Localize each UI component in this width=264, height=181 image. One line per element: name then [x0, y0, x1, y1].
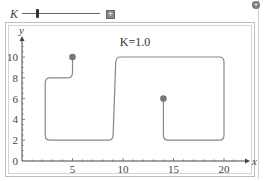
chart: xy51015200246810K=1.0	[0, 0, 264, 181]
y-tick-label: 2	[13, 134, 19, 146]
x-tick-label: 10	[118, 163, 130, 175]
x-axis-label: x	[251, 155, 257, 167]
marker-start	[69, 54, 76, 61]
x-axis-arrow-icon	[245, 159, 250, 164]
y-tick-label: 8	[13, 72, 19, 84]
x-tick-label: 5	[70, 163, 76, 175]
y-tick-label: 6	[13, 93, 19, 105]
marker-end	[160, 95, 167, 102]
y-tick-label: 10	[7, 51, 19, 63]
y-tick-label: 0	[13, 155, 19, 167]
y-axis-label: y	[18, 24, 24, 36]
x-tick-label: 15	[168, 163, 180, 175]
trajectory-line	[45, 57, 224, 140]
y-tick-label: 4	[13, 113, 19, 125]
x-tick-label: 20	[219, 163, 231, 175]
y-axis-arrow-icon	[20, 36, 25, 41]
chart-title: K=1.0	[120, 35, 150, 49]
